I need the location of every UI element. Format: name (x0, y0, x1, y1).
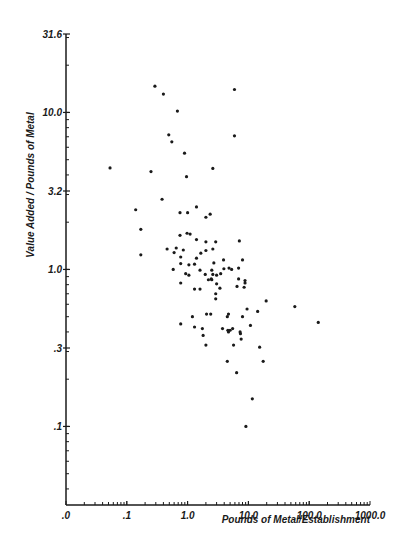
data-point (185, 232, 188, 235)
data-point (195, 205, 198, 208)
data-point (178, 234, 181, 237)
data-point (232, 343, 235, 346)
y-tick-label: 3.2 (48, 186, 62, 197)
data-point (204, 249, 207, 252)
y-axis-title: Value Added / Pounds of Metal (25, 112, 36, 258)
data-point (233, 134, 236, 137)
data-point (245, 307, 248, 310)
data-point (204, 240, 207, 243)
data-point (249, 324, 252, 327)
data-point (214, 292, 217, 295)
data-point (241, 315, 244, 318)
data-point (178, 211, 181, 214)
data-point (193, 325, 196, 328)
data-point (221, 327, 224, 330)
data-point (167, 133, 170, 136)
data-point (189, 232, 192, 235)
data-point (187, 274, 190, 277)
data-point (222, 267, 225, 270)
data-point (185, 175, 188, 178)
data-point (214, 240, 217, 243)
x-tick-label: .0 (62, 510, 71, 521)
data-point (211, 167, 214, 170)
data-point (179, 322, 182, 325)
data-point (201, 327, 204, 330)
data-point (211, 273, 214, 276)
data-point (205, 312, 208, 315)
data-point (230, 268, 233, 271)
y-tick-label: .1 (54, 421, 63, 432)
data-point (233, 88, 236, 91)
data-point (209, 213, 212, 216)
data-point (165, 247, 168, 250)
data-point (243, 281, 246, 284)
data-point (262, 360, 265, 363)
data-point (237, 267, 240, 270)
data-point (226, 360, 229, 363)
data-point (187, 263, 190, 266)
data-point (162, 92, 165, 95)
data-point (198, 287, 201, 290)
data-point (215, 274, 218, 277)
x-tick-label: 1.0 (181, 510, 195, 521)
data-point (256, 310, 259, 313)
data-point (134, 208, 137, 211)
data-point (149, 170, 152, 173)
scatter-chart: 31.610.03.21.0.3.1 .0.11.010.0100.01000.… (0, 0, 410, 541)
data-point (184, 272, 187, 275)
data-point (265, 299, 268, 302)
data-point (160, 198, 163, 201)
data-point (218, 287, 221, 290)
data-point (193, 287, 196, 290)
data-point (176, 110, 179, 113)
data-point (202, 334, 205, 337)
data-point (258, 346, 261, 349)
data-point (210, 278, 213, 281)
data-point (238, 239, 241, 242)
data-point (227, 312, 230, 315)
data-point (241, 258, 244, 261)
data-point (204, 343, 207, 346)
data-point (170, 140, 173, 143)
data-point (108, 166, 111, 169)
data-point (179, 262, 182, 265)
data-point (251, 397, 254, 400)
data-point (172, 268, 175, 271)
data-point (204, 273, 207, 276)
data-points (108, 85, 319, 428)
y-tick-label: 31.6 (43, 29, 63, 40)
x-axis-title: Pounds of Metal/Establishment (222, 514, 371, 525)
data-point (209, 312, 212, 315)
y-tick-label: 1.0 (48, 264, 62, 275)
data-point (240, 338, 243, 341)
data-point (215, 282, 218, 285)
data-point (210, 269, 213, 272)
data-point (204, 216, 207, 219)
data-point (179, 255, 182, 258)
data-point (179, 281, 182, 284)
data-point (195, 238, 198, 241)
data-point (214, 297, 217, 300)
data-point (244, 425, 247, 428)
data-point (139, 253, 142, 256)
data-point (173, 251, 176, 254)
data-point (191, 315, 194, 318)
data-point (219, 272, 222, 275)
data-point (231, 327, 234, 330)
data-point (207, 278, 210, 281)
data-point (199, 252, 202, 255)
data-point (183, 152, 186, 155)
y-tick-label: 10.0 (43, 107, 63, 118)
x-tick-label: .1 (123, 510, 132, 521)
data-point (193, 263, 196, 266)
data-point (186, 211, 189, 214)
data-point (235, 285, 238, 288)
data-point (235, 371, 238, 374)
data-point (198, 269, 201, 272)
data-point (139, 228, 142, 231)
data-point (317, 321, 320, 324)
data-point (195, 257, 198, 260)
data-point (175, 246, 178, 249)
data-point (243, 286, 246, 289)
data-point (211, 247, 214, 250)
